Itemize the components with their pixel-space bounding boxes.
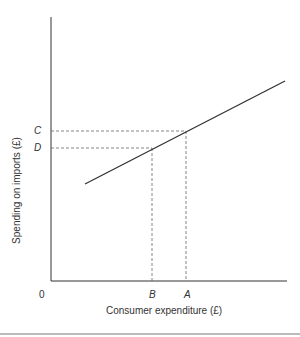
tick-b: B xyxy=(149,290,156,300)
y-axis-label: Spending on imports (£) xyxy=(11,131,22,251)
x-axis-label: Consumer expenditure (£) xyxy=(106,306,222,316)
tick-c: C xyxy=(34,126,41,136)
import-function-line xyxy=(85,81,285,184)
diagram-canvas xyxy=(0,0,300,337)
tick-d: D xyxy=(34,143,41,153)
tick-a: A xyxy=(184,290,191,300)
origin-label: 0 xyxy=(39,290,45,300)
bottom-divider xyxy=(0,333,300,335)
